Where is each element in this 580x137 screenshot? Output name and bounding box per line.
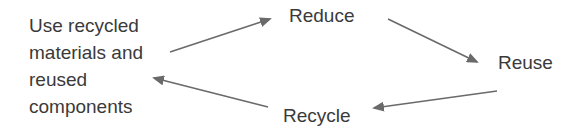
source-line-3: reused (29, 66, 143, 93)
arrow-reduce-to-reuse (388, 19, 477, 62)
source-node: Use recycled materials and reused compon… (29, 12, 143, 120)
arrow-source-to-reduce (170, 19, 270, 52)
arrow-reuse-to-recycle (374, 91, 497, 108)
reduce-node: Reduce (289, 2, 355, 29)
reuse-node: Reuse (498, 49, 553, 76)
arrow-recycle-to-source (154, 78, 268, 107)
source-line-4: components (29, 93, 143, 120)
recycle-node: Recycle (283, 102, 351, 129)
source-line-1: Use recycled (29, 12, 143, 39)
source-line-2: materials and (29, 39, 143, 66)
